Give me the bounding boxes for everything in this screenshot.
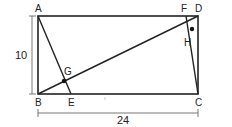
- label-h: H: [184, 37, 191, 48]
- label-g: G: [64, 66, 72, 77]
- width-label: 24: [117, 114, 129, 126]
- label-f: F: [181, 3, 187, 14]
- point-h-marker: [190, 27, 194, 31]
- diagonal-bd: [38, 16, 198, 94]
- label-a: A: [35, 3, 42, 14]
- label-e: E: [68, 97, 75, 108]
- height-label: 10: [15, 49, 27, 61]
- label-b: B: [35, 97, 42, 108]
- geometry-diagram: A B C D E F G H 10 24: [0, 0, 232, 127]
- label-c: C: [195, 97, 202, 108]
- label-d: D: [195, 3, 202, 14]
- segment-ae: [38, 16, 71, 94]
- point-g-marker: [62, 79, 66, 83]
